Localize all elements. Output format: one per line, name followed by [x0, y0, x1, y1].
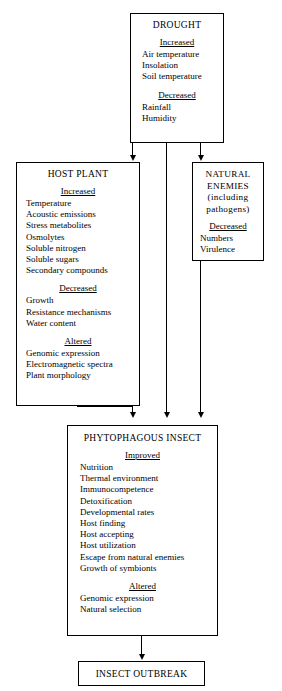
arrowhead-host-plant-to-phytophagous-insect	[130, 412, 136, 418]
list-item: Acoustic emissions	[26, 209, 139, 220]
list-item: Stress metabolites	[26, 220, 139, 231]
list-item: Numbers	[200, 233, 263, 244]
list-item: Humidity	[142, 113, 223, 124]
list-item: Nutrition	[80, 462, 217, 473]
list-item: Thermal environment	[80, 473, 217, 484]
node-host-plant-section-altered-head: Altered	[17, 336, 139, 346]
list-item: Host finding	[80, 518, 217, 529]
connector-phytophagous-insect-to-insect-outbreak	[141, 636, 142, 655]
list-item: Electromagnetic spectra	[26, 359, 139, 370]
list-item: Plant morphology	[26, 370, 139, 381]
list-item: Natural selection	[80, 604, 217, 615]
node-drought-title: DROUGHT	[131, 20, 223, 30]
node-drought-section-decreased-items: Rainfall Humidity	[131, 102, 223, 124]
arrowhead-drought-to-host-plant	[130, 155, 136, 161]
node-host-plant-section-altered-items: Genomic expression Electromagnetic spect…	[17, 348, 139, 382]
node-natural-enemies-section-decreased-items: Numbers Virulence	[193, 233, 263, 255]
arrowhead-phytophagous-insect-to-insect-outbreak	[139, 654, 145, 660]
list-item: Soluble nitrogen	[26, 243, 139, 254]
list-item: Immunocompetence	[80, 484, 217, 495]
list-item: Water content	[26, 318, 139, 329]
list-item: Secondary compounds	[26, 265, 139, 276]
node-drought: DROUGHT Increased Air temperature Insola…	[130, 13, 224, 143]
node-natural-enemies-section-decreased-head: Decreased	[193, 221, 263, 231]
node-host-plant-section-decreased-items: Growth Resistance mechanisms Water conte…	[17, 295, 139, 329]
node-natural-enemies-title-line1: NATURAL	[193, 169, 263, 181]
node-phytophagous-insect-section-altered-items: Genomic expression Natural selection	[68, 593, 217, 615]
list-item: Genomic expression	[80, 593, 217, 604]
node-natural-enemies-title-line3: (including	[193, 192, 263, 204]
arrowhead-natural-enemies-to-phytophagous-insect	[198, 412, 204, 418]
list-item: Rainfall	[142, 102, 223, 113]
list-item: Detoxification	[80, 496, 217, 507]
list-item: Soil temperature	[142, 71, 223, 82]
node-natural-enemies-title-line4: pathogens)	[193, 204, 263, 216]
arrowhead-drought-to-natural-enemies	[198, 155, 204, 161]
list-item: Host utilization	[80, 540, 217, 551]
list-item: Osmolytes	[26, 232, 139, 243]
node-natural-enemies-title-line2: ENEMIES	[193, 181, 263, 193]
node-host-plant: HOST PLANT Increased Temperature Acousti…	[16, 162, 140, 406]
list-item: Growth of symbionts	[80, 563, 217, 574]
list-item: Soluble sugars	[26, 254, 139, 265]
arrowhead-drought-to-phytophagous-insect	[164, 412, 170, 418]
connector-natural-enemies-to-phytophagous-insect	[200, 261, 201, 413]
node-drought-section-increased-head: Increased	[131, 37, 223, 47]
node-insect-outbreak: INSECT OUTBREAK	[78, 661, 205, 686]
node-phytophagous-insect-section-improved-head: Improved	[68, 450, 217, 460]
list-item: Escape from natural enemies	[80, 552, 217, 563]
list-item: Temperature	[26, 198, 139, 209]
connector-host-plant-elbow	[77, 406, 133, 407]
node-phytophagous-insect-section-improved-items: Nutrition Thermal environment Immunocomp…	[68, 462, 217, 574]
list-item: Resistance mechanisms	[26, 307, 139, 318]
node-phytophagous-insect: PHYTOPHAGOUS INSECT Improved Nutrition T…	[67, 425, 218, 636]
list-item: Genomic expression	[26, 348, 139, 359]
node-phytophagous-insect-section-altered-head: Altered	[68, 581, 217, 591]
node-drought-section-decreased-head: Decreased	[131, 90, 223, 100]
list-item: Growth	[26, 295, 139, 306]
node-phytophagous-insect-title: PHYTOPHAGOUS INSECT	[68, 433, 217, 443]
node-host-plant-section-decreased-head: Decreased	[17, 283, 139, 293]
list-item: Insolation	[142, 60, 223, 71]
flow-diagram: DROUGHT Increased Air temperature Insola…	[0, 0, 282, 691]
list-item: Developmental rates	[80, 507, 217, 518]
node-insect-outbreak-title: INSECT OUTBREAK	[96, 669, 188, 679]
node-host-plant-title: HOST PLANT	[17, 169, 139, 179]
node-host-plant-section-increased-head: Increased	[17, 186, 139, 196]
node-drought-section-increased-items: Air temperature Insolation Soil temperat…	[131, 49, 223, 83]
list-item: Host accepting	[80, 529, 217, 540]
list-item: Virulence	[200, 244, 263, 255]
list-item: Air temperature	[142, 49, 223, 60]
node-host-plant-section-increased-items: Temperature Acoustic emissions Stress me…	[17, 198, 139, 276]
connector-drought-to-phytophagous-insect	[166, 143, 167, 413]
node-natural-enemies: NATURAL ENEMIES (including pathogens) De…	[192, 162, 264, 261]
